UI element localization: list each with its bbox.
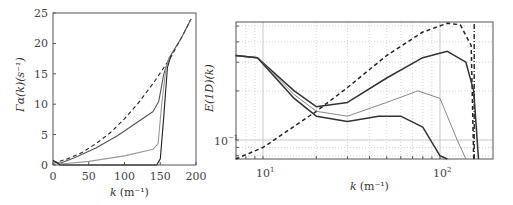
right-series bbox=[236, 22, 479, 159]
right-line-solid-black-low bbox=[236, 56, 448, 160]
right-x-axis-label: k(m⁻¹) bbox=[350, 180, 389, 193]
right-y-axis-label: E(1D)(k) bbox=[203, 64, 216, 113]
right-plot-frame bbox=[236, 22, 493, 159]
right-gridlines bbox=[236, 22, 493, 159]
figure: 0501001502000510152025 k(m⁻¹) Γα(k)(s⁻¹)… bbox=[0, 0, 513, 205]
right-x-tick-10: 101 bbox=[256, 166, 274, 180]
right-y-tick-0.1: 10−1 bbox=[214, 134, 238, 148]
right-x-tick-100: 102 bbox=[433, 166, 451, 180]
right-chart: 101 102 10−1 k(m⁻¹) E(1D)(k) bbox=[0, 0, 513, 205]
right-line-solid-dark bbox=[236, 51, 479, 159]
